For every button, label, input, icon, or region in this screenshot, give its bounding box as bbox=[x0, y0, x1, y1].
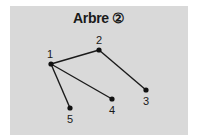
edge-1-2 bbox=[51, 50, 99, 64]
edge-2-3 bbox=[99, 50, 146, 90]
node-2 bbox=[96, 47, 101, 52]
node-5 bbox=[67, 105, 72, 110]
node-3 bbox=[143, 87, 148, 92]
node-1 bbox=[48, 61, 53, 66]
node-label-1: 1 bbox=[47, 48, 53, 60]
edge-1-4 bbox=[51, 64, 112, 99]
node-label-2: 2 bbox=[96, 34, 102, 46]
node-label-5: 5 bbox=[67, 113, 73, 125]
node-label-3: 3 bbox=[143, 95, 149, 107]
node-4 bbox=[109, 96, 114, 101]
node-label-4: 4 bbox=[109, 104, 115, 116]
tree-graph: 12345 bbox=[0, 0, 197, 139]
edge-1-5 bbox=[51, 64, 70, 108]
edges bbox=[51, 50, 146, 108]
